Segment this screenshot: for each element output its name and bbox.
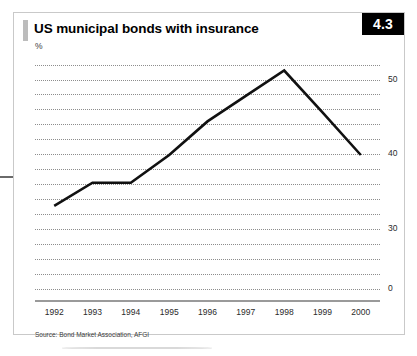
- series-line-path: [54, 71, 361, 206]
- series-line-chart: [35, 57, 380, 289]
- figure-container: 4.3 US municipal bonds with insurance % …: [0, 0, 417, 356]
- x-axis-tick-label: 1996: [198, 307, 217, 317]
- x-axis-tick-label: 1993: [83, 307, 102, 317]
- x-axis-tick-label: 1992: [45, 307, 64, 317]
- source-note: Source: Bond Market Association, AFGI: [35, 331, 149, 338]
- plot-area: [35, 57, 380, 289]
- title-accent-bar: [23, 20, 28, 41]
- x-axis-tick-label: 1998: [275, 307, 294, 317]
- chart-panel: 4.3 US municipal bonds with insurance % …: [13, 12, 405, 335]
- x-axis-tick-label: 1999: [313, 307, 332, 317]
- x-axis-tick-label: 2000: [351, 307, 370, 317]
- scan-artifact-bottom: [62, 347, 212, 349]
- scan-artifact-left: [0, 176, 14, 178]
- y-axis-tick-label: 40: [388, 148, 397, 158]
- x-axis-tick-label: 1997: [236, 307, 255, 317]
- y-axis-tick-label: 30: [388, 223, 397, 233]
- x-axis-tick-label: 1994: [121, 307, 140, 317]
- x-axis-line: [35, 300, 380, 302]
- figure-number-badge: 4.3: [362, 13, 404, 35]
- gridline: [35, 289, 380, 290]
- figure-number-label: 4.3: [373, 16, 393, 32]
- x-axis-tick-label: 1995: [160, 307, 179, 317]
- y-axis-unit-label: %: [35, 41, 43, 51]
- y-axis-tick-label: 0: [388, 283, 393, 293]
- chart-title: US municipal bonds with insurance: [34, 21, 259, 36]
- y-axis-tick-label: 50: [388, 74, 397, 84]
